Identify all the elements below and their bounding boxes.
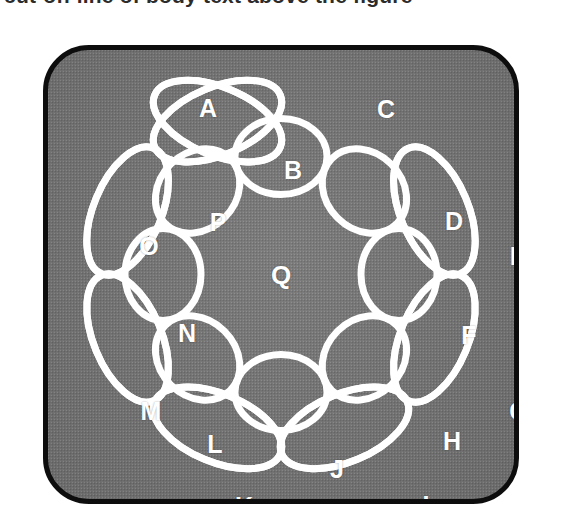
ring-label-a: A (199, 96, 217, 121)
caption-text: cut-off line of body text above the figu… (4, 0, 413, 8)
ring-label-k: K (235, 494, 253, 505)
figure-root: cut-off line of body text above the figu… (0, 0, 573, 530)
ring-label-c: C (377, 97, 395, 122)
ring-label-d: D (445, 209, 463, 234)
ring-label-f: F (461, 323, 476, 348)
ring-h (235, 355, 327, 431)
center-label-q: Q (271, 262, 291, 288)
ring-d (361, 229, 437, 321)
ring-c (377, 135, 492, 287)
ring-label-n: N (178, 321, 196, 346)
ring-label-o: O (139, 234, 158, 259)
ring-label-i: I (423, 493, 430, 505)
cut-off-caption: cut-off line of body text above the figu… (0, 0, 573, 14)
ring-label-l: L (207, 432, 222, 457)
ring-label-p: P (210, 210, 227, 235)
ring-label-e: E (510, 244, 519, 269)
ring-l (125, 229, 201, 321)
ring-label-h: H (443, 429, 461, 454)
ring-label-m: M (141, 399, 162, 424)
ring-label-b: B (284, 158, 302, 183)
ring-label-g: G (509, 399, 519, 424)
ring-label-j: J (330, 457, 344, 482)
diagram-panel: ABCDEFGHIJKLMNOPQ (43, 45, 519, 504)
